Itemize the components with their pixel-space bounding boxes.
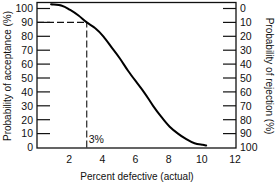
y-tick-label: 10	[21, 127, 33, 139]
x-tick-label: 4	[99, 153, 105, 165]
y-tick-label: 40	[21, 86, 33, 98]
right-y-axis-ticks: 1009080706050403020100	[223, 2, 258, 153]
y-tick-label: 80	[21, 30, 33, 42]
y-tick-label: 0	[27, 141, 33, 153]
y-tick-label: 70	[21, 44, 33, 56]
y2-tick-label: 10	[240, 16, 252, 28]
y2-tick-label: 80	[240, 114, 252, 126]
x-tick-label: 10	[196, 153, 208, 165]
x-axis-title: Percent defective (actual)	[80, 171, 193, 182]
y-tick-label: 30	[21, 100, 33, 112]
y2-tick-label: 60	[240, 86, 252, 98]
x-tick-label: 6	[133, 153, 139, 165]
plot-border	[37, 3, 236, 149]
oc-curve-chart: 0102030405060708090100 10090807060504030…	[0, 0, 276, 187]
y-tick-label: 60	[21, 58, 33, 70]
plot-frame	[37, 3, 236, 149]
y-tick-label: 100	[15, 2, 33, 14]
y2-tick-label: 0	[240, 2, 246, 14]
y2-tick-label: 100	[240, 141, 258, 153]
left-y-axis-ticks: 0102030405060708090100	[15, 2, 50, 153]
y-tick-label: 20	[21, 114, 33, 126]
y-axis-title-right: Probability of rejection (%)	[264, 18, 275, 135]
y2-tick-label: 70	[240, 100, 252, 112]
annotations: 3%	[37, 22, 104, 147]
y-axis-title-left: Probability of acceptance (%)	[2, 11, 13, 141]
oc-curve-line	[51, 4, 206, 145]
x-tick-label: 8	[166, 153, 172, 165]
y-tick-label: 50	[21, 72, 33, 84]
x-axis-ticks: 24681012	[66, 153, 241, 165]
y2-tick-label: 40	[240, 58, 252, 70]
y2-tick-label: 90	[240, 127, 252, 139]
y2-tick-label: 50	[240, 72, 252, 84]
y-tick-label: 90	[21, 16, 33, 28]
x-tick-label: 12	[229, 153, 241, 165]
y2-tick-label: 20	[240, 30, 252, 42]
y2-tick-label: 30	[240, 44, 252, 56]
x-tick-label: 2	[66, 153, 72, 165]
annotation-label: 3%	[89, 133, 104, 145]
